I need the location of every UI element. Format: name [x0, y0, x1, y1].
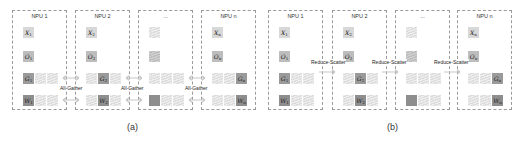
- o-block: O1: [23, 51, 34, 62]
- g-shard-empty: [367, 73, 378, 84]
- g-block: G2: [355, 73, 366, 84]
- g-shard-empty: [480, 73, 491, 84]
- npu-title: NPU n: [202, 13, 255, 19]
- double-arrow-icon: [62, 75, 80, 81]
- w-shard-empty: [303, 95, 314, 106]
- g-shard-empty: [468, 73, 479, 84]
- npu-title: NPU 1: [269, 13, 322, 19]
- g-shard-empty: [418, 73, 429, 84]
- g-block: Gn: [236, 73, 247, 84]
- o-block-placeholder: [149, 51, 160, 62]
- reduce-scatter-label: Reduce-Scatter: [372, 59, 407, 65]
- x-block: Xn: [212, 27, 223, 38]
- double-arrow-icon: [62, 97, 80, 103]
- npu-n-box: NPU n Xn On Gn Wn: [201, 10, 256, 110]
- all-gather-label: All-Gather: [185, 85, 208, 91]
- g-block: G1: [23, 73, 34, 84]
- npu-title: ...: [396, 13, 449, 19]
- w-shard-empty: [480, 95, 491, 106]
- g-shard-empty: [303, 73, 314, 84]
- g-shard-empty: [430, 73, 441, 84]
- w-block: W2: [98, 95, 109, 106]
- g-shard-empty: [149, 73, 160, 84]
- double-arrow-icon: [125, 97, 143, 103]
- caption-b: (b): [387, 122, 398, 132]
- w-shard-empty: [430, 95, 441, 106]
- panel-a-all-gather: NPU 1 X1 O1 G1 W1 NPU 2 X2 O2 G2 W2 ... …: [0, 0, 261, 145]
- w-block: W2: [355, 95, 366, 106]
- o-block: O2: [86, 51, 97, 62]
- x-block: X1: [23, 27, 34, 38]
- g-shard-empty: [406, 73, 417, 84]
- w-shard-empty: [110, 95, 121, 106]
- w-shard-empty: [291, 95, 302, 106]
- x-block: Xn: [468, 27, 479, 38]
- o-block: O1: [279, 51, 290, 62]
- o-block: On: [468, 51, 479, 62]
- x-block-placeholder: [406, 27, 417, 38]
- w-block-placeholder: [406, 95, 417, 106]
- all-gather-label: All-Gather: [121, 85, 144, 91]
- g-shard-empty: [291, 73, 302, 84]
- npu-1-box: NPU 1 X1 O1 G1 W1: [12, 10, 67, 110]
- right-arrow-icon: [443, 69, 461, 75]
- w-block: Wn: [236, 95, 247, 106]
- o-block: On: [212, 51, 223, 62]
- w-shard-empty: [468, 95, 479, 106]
- x-block: X2: [86, 27, 97, 38]
- g-block: Gn: [492, 73, 503, 84]
- panel-b-reduce-scatter: NPU 1 X1 O1 G1 W1 NPU 2 X2 O2 G2 W2 ... …: [261, 0, 522, 145]
- x-block: X2: [343, 27, 354, 38]
- w-block: W1: [23, 95, 34, 106]
- double-arrow-icon: [188, 97, 206, 103]
- w-shard-empty: [35, 95, 46, 106]
- npu-title: NPU 1: [13, 13, 66, 19]
- w-shard-empty: [212, 95, 223, 106]
- npu-title: NPU 2: [333, 13, 386, 19]
- npu-ellipsis-box: ...: [138, 10, 193, 110]
- g-shard-empty: [161, 73, 172, 84]
- g-shard-empty: [212, 73, 223, 84]
- w-shard-empty: [343, 95, 354, 106]
- g-block: G1: [279, 73, 290, 84]
- x-block-placeholder: [149, 27, 160, 38]
- w-shard-empty: [161, 95, 172, 106]
- x-block: X1: [279, 27, 290, 38]
- g-shard-empty: [224, 73, 235, 84]
- w-shard-empty: [86, 95, 97, 106]
- w-shard-empty: [173, 95, 184, 106]
- w-block-placeholder: [149, 95, 160, 106]
- g-shard-empty: [343, 73, 354, 84]
- right-arrow-icon: [381, 69, 399, 75]
- g-shard-empty: [47, 73, 58, 84]
- g-shard-empty: [173, 73, 184, 84]
- npu-title: NPU n: [458, 13, 511, 19]
- double-arrow-icon: [188, 75, 206, 81]
- npu-title: ...: [139, 13, 192, 19]
- w-shard-empty: [47, 95, 58, 106]
- npu-2-box: NPU 2 X2 O2 G2 W2: [75, 10, 130, 110]
- right-arrow-icon: [318, 69, 336, 75]
- g-shard-empty: [110, 73, 121, 84]
- w-shard-empty: [367, 95, 378, 106]
- double-arrow-icon: [125, 75, 143, 81]
- w-block: W1: [279, 95, 290, 106]
- npu-title: NPU 2: [76, 13, 129, 19]
- g-shard-empty: [86, 73, 97, 84]
- all-gather-label: All-Gather: [60, 85, 83, 91]
- reduce-scatter-label: Reduce-Scatter: [311, 59, 346, 65]
- caption-a: (a): [127, 122, 138, 132]
- g-block: G2: [98, 73, 109, 84]
- w-shard-empty: [418, 95, 429, 106]
- reduce-scatter-label: Reduce-Scatter: [434, 59, 469, 65]
- g-shard-empty: [35, 73, 46, 84]
- o-block-placeholder: [406, 51, 417, 62]
- w-block: Wn: [492, 95, 503, 106]
- w-shard-empty: [224, 95, 235, 106]
